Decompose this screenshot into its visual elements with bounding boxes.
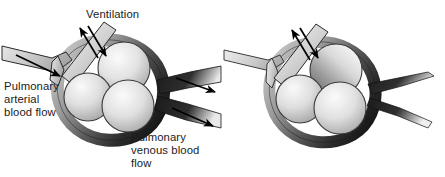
panel-normal-ventilation-perfusion: Ventilation Pulmonary arterial blood flo…	[0, 0, 222, 177]
label-ventilation-normal: Ventilation	[86, 8, 139, 21]
label-pulmonary-venous-blood-flow: Pulmonary venous blood flow	[131, 131, 199, 171]
figure-canvas: Ventilation Pulmonary arterial blood flo…	[0, 0, 445, 177]
alveolus-bottom	[314, 82, 366, 134]
alveolus-bottom	[102, 80, 154, 132]
panel-hypoxic-pulmonary-vasoconstriction: Ventilation Hypoxic pulmonary vasoconstr…	[222, 0, 445, 177]
label-pulmonary-arterial-blood-flow: Pulmonary arterial blood flow	[4, 80, 59, 120]
